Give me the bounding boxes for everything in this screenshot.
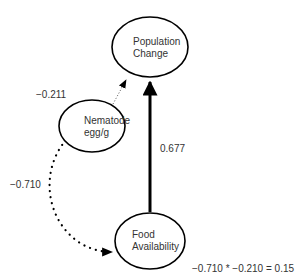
indirect-effect-equation: −0.710 * −0.210 = 0.15 — [192, 263, 294, 274]
node-food-availability-label-2: Availability — [132, 241, 179, 252]
coefficient-nematode-to-population: −0.211 — [36, 89, 67, 100]
node-population-change: Population Change — [112, 17, 188, 77]
coefficient-food-to-population: 0.677 — [160, 143, 185, 154]
node-food-availability-label-1: Food — [132, 229, 155, 240]
node-nematode-label-2: egg/g — [84, 127, 109, 138]
node-population-change-label-1: Population — [133, 36, 180, 47]
node-nematode-label-1: Nematode — [84, 115, 131, 126]
node-food-availability: Food Availability — [115, 213, 185, 269]
edge-nematode-to-food — [50, 140, 112, 252]
node-nematode: Nematode egg/g — [59, 100, 131, 152]
edge-nematode-to-population — [113, 80, 126, 104]
coefficient-nematode-to-food: −0.710 — [10, 179, 41, 190]
path-diagram: Population Change Nematode egg/g Food Av… — [0, 0, 306, 280]
node-population-change-label-2: Change — [133, 48, 168, 59]
